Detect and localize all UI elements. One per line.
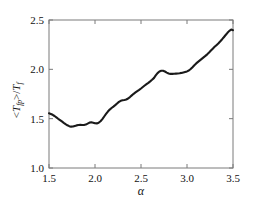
x-tick-label: 2.0	[88, 173, 102, 184]
y-tick-label: 2.0	[20, 64, 44, 75]
ylabel-denominator-subscript: f	[15, 82, 24, 84]
y-tick-label: 2.5	[20, 15, 44, 26]
y-tick-label: 1.5	[20, 113, 44, 124]
x-tick-label: 3.5	[226, 173, 240, 184]
x-tick-label: 3.0	[180, 173, 194, 184]
chart-figure: 1.52.02.53.03.5 1.01.52.02.5 α <Tfp>/Tf	[0, 0, 254, 204]
ylabel-open: <	[10, 112, 22, 118]
ylabel-denominator-symbol: T	[10, 85, 22, 91]
y-tick-label: 1.0	[20, 163, 44, 174]
x-tick-label: 1.5	[42, 173, 56, 184]
plot-background	[49, 20, 233, 168]
ylabel-close: >/	[10, 91, 22, 100]
x-tick-label: 2.5	[134, 173, 148, 184]
x-axis-label: α	[138, 185, 144, 197]
ylabel-symbol: T	[10, 106, 22, 112]
ylabel-symbol-subscript: fp	[15, 100, 24, 106]
y-axis-label: <Tfp>/Tf	[11, 55, 24, 145]
